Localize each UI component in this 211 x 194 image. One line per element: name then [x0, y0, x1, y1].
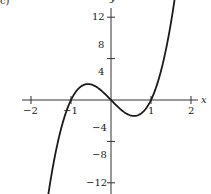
x-tick-label: −1: [63, 106, 78, 116]
y-tick-label: −4: [92, 123, 107, 133]
panel-label: c): [0, 0, 10, 6]
x-axis-label: x: [201, 95, 207, 105]
y-tick-label: 12: [92, 12, 105, 22]
cubic-function-plot: [0, 0, 211, 194]
y-axis-label: y: [110, 0, 116, 3]
y-tick-label: 8: [98, 40, 104, 50]
y-tick-label: 4: [98, 67, 104, 77]
x-tick-label: 1: [148, 106, 154, 116]
x-tick-label: 2: [188, 106, 194, 116]
y-tick-label: −8: [92, 150, 107, 160]
x-tick-label: −2: [23, 106, 38, 116]
y-tick-label: −12: [86, 178, 107, 188]
